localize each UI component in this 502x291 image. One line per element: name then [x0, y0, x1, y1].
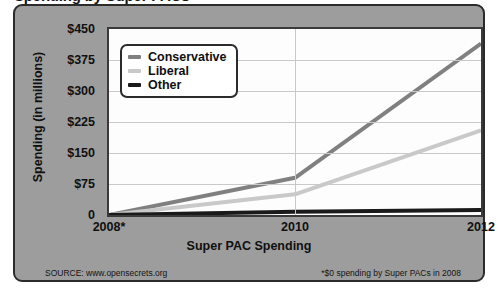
chart-figure: Spending by Super PACs Spending (in mill… [0, 0, 502, 291]
y-tick-label: $450 [51, 23, 95, 36]
y-tick-label: $300 [51, 85, 95, 98]
y-tick-label: $225 [51, 116, 95, 129]
footnote: *$0 spending by Super PACs in 2008 [321, 268, 461, 278]
chart-panel: Spending (in millions) $450$375$300$225$… [13, 4, 485, 282]
x-tick-label: 2008* [93, 220, 126, 234]
legend-item-label: Other [148, 78, 181, 92]
legend-item-label: Liberal [148, 64, 189, 78]
legend-item: Other [128, 78, 227, 92]
x-tick-label: 2012 [467, 220, 495, 234]
chart-legend: ConservativeLiberalOther [120, 44, 238, 98]
legend-item-label: Conservative [148, 50, 227, 64]
x-tick-label: 2010 [281, 220, 309, 234]
legend-swatch-icon [128, 55, 141, 59]
legend-item: Liberal [128, 64, 227, 78]
legend-swatch-icon [128, 83, 141, 87]
y-axis-title: Spending (in millions) [31, 32, 45, 202]
x-axis-title: Super PAC Spending [15, 239, 483, 253]
legend-item: Conservative [128, 50, 227, 64]
y-tick-label: $375 [51, 54, 95, 67]
legend-swatch-icon [128, 69, 141, 73]
y-tick-label: $75 [51, 178, 95, 191]
y-tick-label: 0 [51, 209, 95, 222]
y-tick-label: $150 [51, 147, 95, 160]
gridline-vertical [295, 29, 296, 215]
source-note: SOURCE: www.opensecrets.org [45, 268, 167, 278]
